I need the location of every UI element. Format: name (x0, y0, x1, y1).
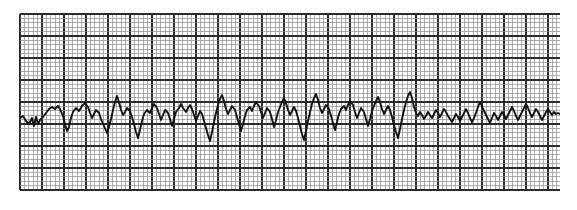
ecg-rhythm-strip (0, 0, 577, 210)
ecg-chart-svg (0, 0, 577, 210)
